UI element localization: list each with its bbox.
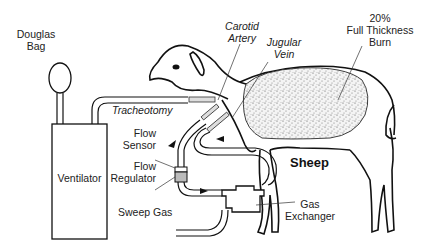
douglas-bag-line1: Douglas (10, 28, 62, 40)
burn-line3: Burn (340, 36, 420, 48)
carotid-artery-label: Carotid Artery (218, 20, 266, 44)
gas-exchanger-line1: Gas (282, 198, 338, 210)
gas-exchanger (222, 186, 264, 212)
tracheotomy-label: Tracheotomy (112, 104, 173, 116)
carotid-line1: Carotid (218, 20, 266, 32)
flow-sensor-label: Flow Sensor (106, 127, 156, 151)
arrow-icon (216, 136, 224, 142)
flow-regulator-block (175, 172, 187, 182)
jugular-line2: Vein (262, 48, 306, 60)
flow-sensor-block (175, 167, 187, 172)
jugular-line1: Jugular (262, 36, 306, 48)
jugular-vein-label: Jugular Vein (262, 36, 306, 60)
sweep-gas-label: Sweep Gas (118, 206, 172, 218)
burn-line1: 20% (340, 12, 420, 24)
douglas-bag (49, 63, 71, 124)
douglas-bag-label: Douglas Bag (10, 28, 62, 52)
ventilator-label: Ventilator (52, 172, 107, 184)
flow-sensor-line2: Sensor (106, 139, 156, 151)
burn-line2: Full Thickness (340, 24, 420, 36)
flow-sensor-line1: Flow (106, 127, 156, 139)
gas-exchanger-label: Gas Exchanger (282, 198, 338, 222)
gas-exchanger-line2: Exchanger (282, 210, 338, 222)
flow-regulator-label: Flow Regulator (100, 160, 156, 184)
flow-regulator-line1: Flow (100, 160, 156, 172)
sheep-eye (173, 65, 180, 70)
arrow-icon (200, 188, 208, 194)
sheep-label: Sheep (290, 157, 329, 169)
burn-label: 20% Full Thickness Burn (340, 12, 420, 48)
arrow-icon (168, 140, 176, 148)
burn-area (243, 68, 368, 139)
carotid-line2: Artery (218, 32, 266, 44)
flow-arrows (168, 136, 224, 194)
douglas-bag-line2: Bag (10, 40, 62, 52)
flow-regulator-line2: Regulator (100, 172, 156, 184)
